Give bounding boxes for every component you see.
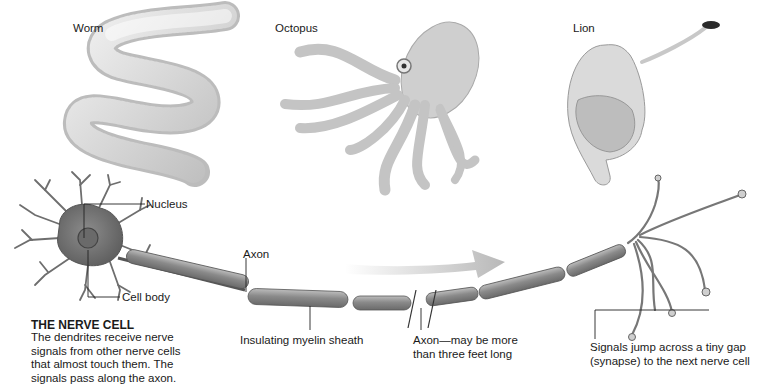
- octopus-label: Octopus: [275, 22, 318, 35]
- caption-line: signals from other nerve cells: [31, 345, 231, 359]
- worm-label: Worm: [73, 22, 103, 35]
- nucleus-label: Nucleus: [146, 198, 188, 211]
- worm-illustration: [78, 16, 225, 172]
- axon-length-label-line1: Axon—may be more: [413, 334, 518, 347]
- caption-line: signals pass along the axon.: [31, 372, 231, 386]
- caption-line: The dendrites receive nerve: [31, 331, 231, 345]
- axon-terminals: [628, 178, 740, 335]
- lion-label: Lion: [573, 22, 595, 35]
- arrow-right-icon: [345, 250, 505, 278]
- nucleus: [78, 228, 98, 248]
- cell-body-label: Cell body: [122, 291, 170, 304]
- caption-title: THE NERVE CELL: [31, 318, 134, 332]
- axon-length-label-line2: than three feet long: [413, 348, 512, 361]
- axon: [118, 243, 627, 310]
- synapse-label-line2: (synapse) to the next nerve cell: [590, 355, 750, 368]
- caption-body: The dendrites receive nerve signals from…: [31, 331, 231, 385]
- lion-illustration: [568, 21, 720, 185]
- axon-label: Axon: [243, 248, 269, 261]
- synapse-label-line1: Signals jump across a tiny gap: [590, 341, 746, 354]
- caption-line: that almost touch them. The: [31, 358, 231, 372]
- octopus-illustration: [285, 9, 494, 190]
- myelin-sheath-label: Insulating myelin sheath: [240, 334, 363, 347]
